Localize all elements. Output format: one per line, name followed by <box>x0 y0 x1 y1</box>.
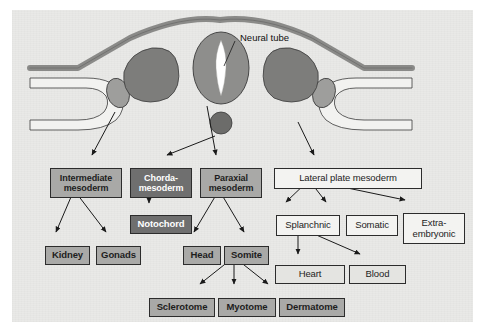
node-sclerotome[interactable]: Sclerotome <box>149 298 215 317</box>
node-chorda-mesoderm[interactable]: Chorda- mesoderm <box>130 168 192 198</box>
node-head[interactable]: Head <box>183 246 221 265</box>
node-extra-embryonic[interactable]: Extra- embryonic <box>403 213 465 244</box>
node-intermediate-mesoderm[interactable]: Intermediate mesoderm <box>50 168 122 198</box>
notochord-structure <box>210 112 232 134</box>
node-notochord[interactable]: Notochord <box>130 215 192 234</box>
embryo-cross-section <box>30 19 412 134</box>
edge-embryo-to-lateral-plate <box>298 122 314 155</box>
node-blood[interactable]: Blood <box>349 265 406 284</box>
node-gonads[interactable]: Gonads <box>96 246 141 265</box>
callout-neural-tube-label: Neural tube <box>240 32 289 43</box>
node-somatic[interactable]: Somatic <box>346 215 398 236</box>
node-myotome[interactable]: Myotome <box>218 298 276 317</box>
node-somite[interactable]: Somite <box>224 246 269 265</box>
node-kidney[interactable]: Kidney <box>45 246 90 265</box>
node-lateral-plate-mesoderm[interactable]: Lateral plate mesoderm <box>274 168 422 189</box>
paraxial-mesoderm-right <box>263 48 318 102</box>
node-paraxial-mesoderm[interactable]: Paraxial mesoderm <box>200 168 262 198</box>
node-heart[interactable]: Heart <box>275 265 345 284</box>
figure-panel: Neural tube Intermediate mesoderm Chorda… <box>12 10 473 322</box>
node-splanchnic[interactable]: Splanchnic <box>276 215 340 236</box>
paraxial-mesoderm-left <box>124 48 179 102</box>
edge-embryo-to-chorda <box>167 136 215 155</box>
node-dermatome[interactable]: Dermatome <box>279 298 345 317</box>
figure-root: Neural tube Intermediate mesoderm Chorda… <box>0 0 487 336</box>
